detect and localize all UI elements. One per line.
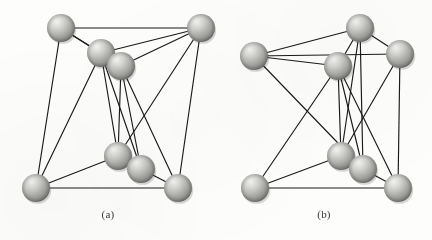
graph-node-top-left: [47, 14, 76, 44]
panel-a-caption: (a): [0, 208, 216, 220]
graph-node-bottom-right: [164, 174, 193, 204]
panel-b-nodes: [240, 14, 415, 204]
graph-node-upper-mid-2: [107, 52, 136, 82]
node-rim-shade: [47, 14, 75, 42]
node-rim-shade: [241, 174, 269, 202]
graph-edge: [101, 28, 201, 53]
panel-b-graph: [216, 0, 432, 240]
graph-node-upper-right: [386, 40, 415, 70]
graph-node-lower-mid-2: [127, 155, 156, 185]
graph-node-lower-mid-2: [349, 155, 378, 185]
graph-node-bottom-left: [241, 174, 270, 204]
graph-node-top-mid: [346, 14, 375, 44]
graph-edge: [360, 28, 363, 169]
panel-b: (b): [216, 0, 432, 240]
node-rim-shade: [164, 174, 192, 202]
node-rim-shade: [107, 52, 135, 80]
node-rim-shade: [346, 14, 374, 42]
node-rim-shade: [324, 52, 352, 80]
figure-root: (a) (b): [0, 0, 432, 240]
node-rim-shade: [384, 174, 412, 202]
node-rim-shade: [22, 174, 50, 202]
graph-edge: [36, 28, 61, 188]
graph-node-top-right: [187, 14, 216, 44]
graph-node-bottom-left: [22, 174, 51, 204]
graph-edge: [254, 28, 360, 56]
panel-a: (a): [0, 0, 216, 240]
graph-edge: [178, 28, 201, 188]
graph-node-upper-left: [240, 42, 269, 72]
node-rim-shade: [349, 155, 377, 183]
graph-edge: [36, 53, 101, 188]
node-rim-shade: [386, 40, 414, 68]
panel-b-edges: [254, 28, 400, 188]
node-rim-shade: [187, 14, 215, 42]
graph-edge: [398, 54, 400, 188]
graph-node-bottom-right: [384, 174, 413, 204]
graph-node-center-mid: [324, 52, 353, 82]
graph-edge: [255, 66, 338, 188]
node-rim-shade: [240, 42, 268, 70]
panel-b-caption: (b): [216, 208, 432, 220]
panel-a-graph: [0, 0, 216, 240]
node-rim-shade: [127, 155, 155, 183]
graph-edge: [254, 54, 400, 56]
